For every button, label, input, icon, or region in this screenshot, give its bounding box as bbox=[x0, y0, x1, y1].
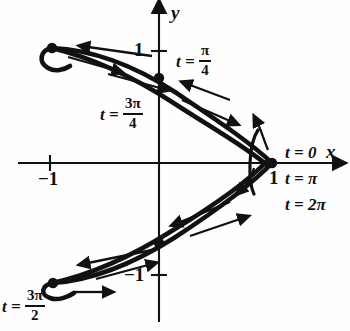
y-axis bbox=[151, 12, 167, 322]
label-t-3pi-over-2-fraction: 3π 2 bbox=[25, 288, 45, 324]
label-t-0-text: t = 0 bbox=[285, 143, 316, 162]
parametric-curve bbox=[42, 48, 272, 299]
label-t-pi: t = π bbox=[285, 170, 317, 187]
label-t-3pi-over-4-numerator: 3π bbox=[123, 96, 143, 112]
label-t-pi-over-4-fraction: π 4 bbox=[199, 43, 211, 79]
arrow-cusp-right-up bbox=[258, 124, 268, 150]
label-t-3pi-over-2-numerator: 3π bbox=[25, 288, 45, 304]
point-t-3pi-over-2-dot bbox=[48, 278, 58, 288]
label-t-3pi-over-4: t = 3π 4 bbox=[100, 97, 143, 133]
point-t-3pi-over-4-dot bbox=[47, 43, 57, 53]
label-t-3pi-over-2-lhs: t = bbox=[2, 297, 21, 316]
point-t-pi-over-4-dot bbox=[154, 73, 164, 83]
label-t-0: t = 0 bbox=[285, 144, 316, 161]
x-tick-neg1-label: −1 bbox=[38, 169, 58, 188]
label-t-2pi-text: t = 2π bbox=[285, 195, 326, 214]
curve-lower-outer bbox=[53, 163, 272, 283]
label-t-pi-text: t = π bbox=[285, 169, 317, 188]
curve-cusp-lower-left bbox=[43, 283, 74, 299]
curve-canvas bbox=[0, 0, 350, 331]
x-axis-label: x bbox=[326, 142, 336, 161]
direction-arrows bbox=[68, 47, 268, 292]
label-t-pi-over-4-lhs: t = bbox=[176, 52, 195, 71]
y-tick-neg1-label: −1 bbox=[124, 265, 144, 284]
label-t-pi-over-4-numerator: π bbox=[199, 43, 211, 59]
label-t-3pi-over-4-fraction: 3π 4 bbox=[123, 96, 143, 132]
x-tick-pos1-label: 1 bbox=[269, 168, 279, 187]
label-t-3pi-over-4-denominator: 4 bbox=[123, 116, 143, 132]
label-t-3pi-over-2-denominator: 2 bbox=[25, 308, 45, 324]
marked-points bbox=[47, 43, 277, 288]
label-t-3pi-over-2: t = 3π 2 bbox=[2, 289, 45, 325]
label-t-pi-over-4-denominator: 4 bbox=[199, 63, 211, 79]
y-axis-label: y bbox=[171, 3, 179, 22]
point-lower-axis-crossing-dot bbox=[154, 238, 164, 248]
y-tick-pos1-label: 1 bbox=[134, 40, 144, 59]
label-t-3pi-over-4-lhs: t = bbox=[100, 105, 119, 124]
arrow-upper-right-inbound bbox=[190, 85, 230, 100]
label-t-pi-over-4: t = π 4 bbox=[176, 44, 211, 80]
parametric-curve-figure: y x 1 −1 1 −1 t = π 4 t = 3π 4 t = 3π 2 … bbox=[0, 0, 350, 331]
label-t-2pi: t = 2π bbox=[285, 196, 326, 213]
